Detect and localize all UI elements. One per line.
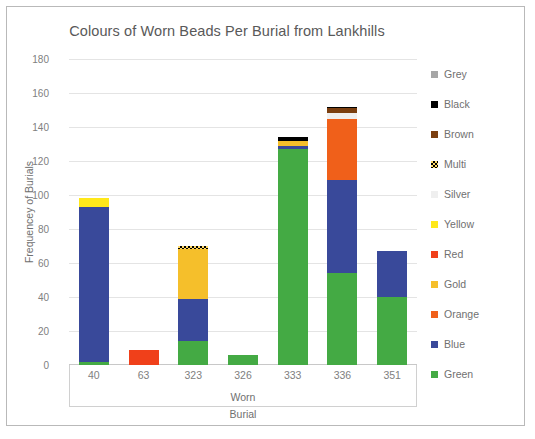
- bar-stack: [327, 107, 357, 365]
- legend-swatch-icon: [431, 371, 438, 378]
- bar-segment-green[interactable]: [377, 297, 407, 365]
- legend-item-grey[interactable]: Grey: [431, 67, 467, 81]
- y-axis-tick-label: 180: [0, 54, 49, 65]
- legend-label: Gold: [444, 278, 466, 290]
- y-axis-tick-label: 20: [0, 326, 49, 337]
- bar-segment-green[interactable]: [178, 341, 208, 365]
- gridline: [69, 297, 417, 298]
- legend-label: Silver: [444, 188, 470, 200]
- bar-segment-blue[interactable]: [377, 251, 407, 297]
- y-axis-tick-label: 80: [0, 224, 49, 235]
- bar-segment-gold[interactable]: [178, 249, 208, 298]
- legend-item-silver[interactable]: Silver: [431, 187, 470, 201]
- legend-label: Grey: [444, 68, 467, 80]
- legend-item-gold[interactable]: Gold: [431, 277, 466, 291]
- bar-segment-red[interactable]: [129, 350, 159, 365]
- bar-stack: [228, 355, 258, 365]
- legend-item-red[interactable]: Red: [431, 247, 463, 261]
- chart-frame: Colours of Worn Beads Per Burial from La…: [6, 6, 525, 426]
- legend-item-blue[interactable]: Blue: [431, 337, 465, 351]
- legend-swatch-icon: [431, 251, 438, 258]
- x-axis-title-line: Worn: [69, 389, 417, 406]
- legend-item-black[interactable]: Black: [431, 97, 470, 111]
- y-axis-tick-label: 0: [0, 360, 49, 371]
- legend-swatch-icon: [431, 101, 438, 108]
- bar-stack: [129, 350, 159, 365]
- gridline: [69, 93, 417, 94]
- legend-swatch-icon: [431, 161, 438, 168]
- y-axis-tick-label: 120: [0, 156, 49, 167]
- y-axis-tick-label: 40: [0, 292, 49, 303]
- gridline: [69, 263, 417, 264]
- legend-item-multi[interactable]: Multi: [431, 157, 466, 171]
- legend-item-orange[interactable]: Orange: [431, 307, 479, 321]
- legend-swatch-icon: [431, 311, 438, 318]
- bar-stack: [79, 198, 109, 365]
- x-axis-title: WornBurial: [69, 389, 417, 423]
- x-axis-tick-label: 351: [362, 369, 422, 381]
- bar-segment-blue[interactable]: [79, 207, 109, 362]
- legend-item-yellow[interactable]: Yellow: [431, 217, 474, 231]
- bar-segment-green[interactable]: [327, 273, 357, 365]
- bar-segment-blue[interactable]: [178, 299, 208, 342]
- legend-swatch-icon: [431, 281, 438, 288]
- chart-title: Colours of Worn Beads Per Burial from La…: [7, 23, 447, 39]
- x-axis-title-line: Burial: [69, 406, 417, 423]
- y-axis-title-text: Frequencey of Burials: [23, 161, 35, 263]
- legend-label: Black: [444, 98, 470, 110]
- legend-swatch-icon: [431, 71, 438, 78]
- y-axis-tick-label: 60: [0, 258, 49, 269]
- bar-segment-green[interactable]: [278, 149, 308, 365]
- legend-label: Yellow: [444, 218, 474, 230]
- bar-segment-yellow[interactable]: [79, 198, 109, 207]
- legend-label: Brown: [444, 128, 474, 140]
- legend-swatch-icon: [431, 341, 438, 348]
- bar-segment-green[interactable]: [228, 355, 258, 365]
- y-axis-title: Frequencey of Burials: [21, 59, 37, 365]
- y-axis-tick-label: 140: [0, 122, 49, 133]
- bar-segment-blue[interactable]: [327, 180, 357, 274]
- gridline: [69, 161, 417, 162]
- legend-swatch-icon: [431, 221, 438, 228]
- y-axis-tick-label: 100: [0, 190, 49, 201]
- legend-label: Orange: [444, 308, 479, 320]
- bar-stack: [377, 251, 407, 365]
- legend-swatch-icon: [431, 191, 438, 198]
- legend-label: Green: [444, 368, 473, 380]
- plot-inner: [69, 59, 417, 365]
- legend-swatch-icon: [431, 131, 438, 138]
- y-axis-tick-label: 160: [0, 88, 49, 99]
- bar-segment-green[interactable]: [79, 362, 109, 365]
- legend-label: Red: [444, 248, 463, 260]
- gridline: [69, 195, 417, 196]
- legend-label: Blue: [444, 338, 465, 350]
- bar-stack: [178, 246, 208, 365]
- gridline: [69, 59, 417, 60]
- gridline: [69, 127, 417, 128]
- legend-item-green[interactable]: Green: [431, 367, 473, 381]
- bar-segment-orange[interactable]: [327, 119, 357, 180]
- gridline: [69, 229, 417, 230]
- legend-item-brown[interactable]: Brown: [431, 127, 474, 141]
- plot-area: [69, 59, 417, 365]
- bar-stack: [278, 137, 308, 365]
- gridline: [69, 331, 417, 332]
- legend-label: Multi: [444, 158, 466, 170]
